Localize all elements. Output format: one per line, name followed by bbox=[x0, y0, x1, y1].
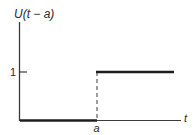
x-tick-label: a bbox=[94, 122, 100, 134]
unit-step-diagram: U(t − a) 1 a t bbox=[0, 0, 196, 135]
y-axis-label: U(t − a) bbox=[14, 7, 54, 21]
x-axis-label: t bbox=[184, 112, 188, 124]
y-tick-label: 1 bbox=[10, 66, 16, 78]
